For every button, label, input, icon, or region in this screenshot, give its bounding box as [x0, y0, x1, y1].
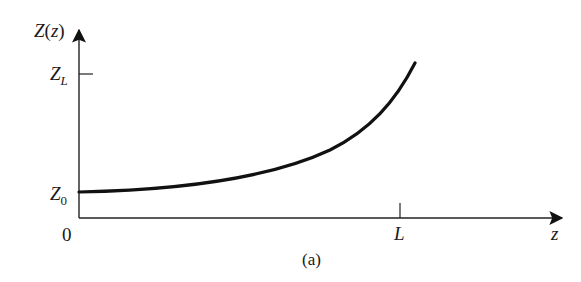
y-axis-label: Z(z) [34, 20, 65, 42]
x-axis-label: z [550, 223, 559, 244]
zl-label: ZL [50, 63, 68, 88]
z0-label: Z0 [50, 183, 67, 208]
l-tick-label: L [393, 223, 405, 244]
origin-label: 0 [62, 224, 72, 245]
impedance-taper-figure: Z(z) ZL Z0 0 L z (a) [0, 0, 581, 282]
impedance-curve [79, 63, 415, 192]
figure-caption: (a) [302, 250, 321, 269]
